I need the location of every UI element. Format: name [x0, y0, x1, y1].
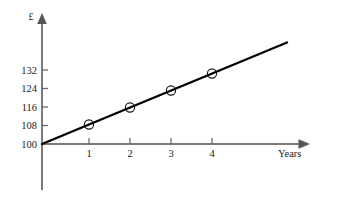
x-tick-label-4: 4: [209, 148, 215, 159]
y-tick-label-132: 132: [21, 65, 37, 76]
chart-container: 132 124 116 108 100 £ 1 2 3 4: [0, 0, 337, 197]
x-tick-label-2: 2: [127, 148, 132, 159]
chart-background: [0, 0, 337, 197]
y-tick-label-108: 108: [21, 120, 37, 131]
x-tick-label-3: 3: [168, 148, 173, 159]
y-tick-label-124: 124: [21, 83, 38, 94]
y-axis-title-currency: £: [29, 11, 34, 22]
y-tick-label-116: 116: [22, 102, 37, 113]
x-tick-label-1: 1: [86, 148, 91, 159]
line-chart: 132 124 116 108 100 £ 1 2 3 4: [0, 0, 337, 197]
y-tick-label-100: 100: [21, 139, 37, 150]
x-axis-title: Years: [278, 148, 301, 159]
